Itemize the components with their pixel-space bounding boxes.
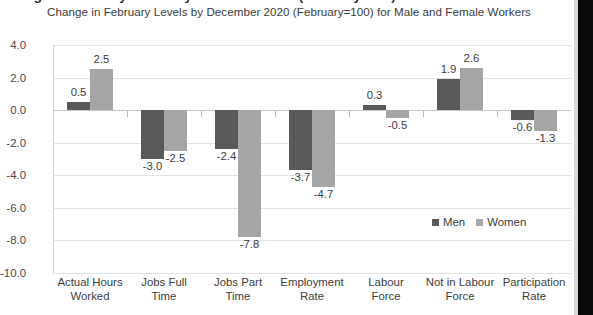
bar-value-label: -0.6: [513, 121, 532, 133]
gridline: [53, 45, 571, 46]
legend-item-men[interactable]: Men: [432, 216, 465, 228]
category-label-line2: Force: [426, 289, 494, 303]
bar-value-label: 2.5: [94, 53, 110, 65]
plot-area: 4.02.00.0-2.0-4.0-6.0-8.0-10.00.52.5-3.0…: [53, 45, 571, 273]
gridline: [53, 273, 571, 274]
category-label-line2: Time: [214, 289, 262, 303]
category-divider-tick: [497, 110, 498, 117]
category-label-line2: Rate: [280, 289, 343, 303]
category-divider-tick: [423, 110, 424, 117]
category-divider-tick: [275, 110, 276, 117]
category-label-line1: Jobs Full: [141, 276, 187, 288]
x-axis-category-label: Jobs FullTime: [141, 275, 187, 303]
x-axis-category-label: LabourForce: [368, 275, 403, 303]
legend-swatch-icon: [476, 219, 483, 226]
bar-men-3: [289, 110, 312, 170]
category-label-line1: Participation: [503, 276, 566, 288]
bar-men-0: [67, 102, 90, 110]
chart-subtitle: Change in February Levels by December 20…: [0, 5, 578, 18]
category-divider-tick: [127, 110, 128, 117]
bar-men-2: [215, 110, 238, 149]
bar-men-4: [363, 105, 386, 110]
gridline: [53, 208, 571, 209]
bar-value-label: -3.7: [291, 171, 310, 183]
x-axis-category-label: EmploymentRate: [280, 275, 343, 303]
y-axis-tick-label: -6.0: [0, 202, 26, 214]
y-axis-tick-label: -2.0: [0, 137, 26, 149]
chart-legend: MenWomen: [432, 216, 526, 228]
bar-men-6: [511, 110, 534, 120]
legend-swatch-icon: [432, 219, 439, 226]
bar-men-5: [437, 79, 460, 110]
bar-value-label: -2.4: [217, 150, 236, 162]
legend-label: Men: [443, 216, 465, 228]
x-axis-category-label: ParticipationRate: [503, 275, 566, 303]
bar-value-label: 0.5: [71, 86, 87, 98]
chart-title-text: Change in February Levels by December 20…: [0, 0, 578, 3]
category-divider-tick: [201, 110, 202, 117]
y-axis-tick-label: 2.0: [0, 72, 26, 84]
bar-women-0: [90, 69, 113, 110]
legend-label: Women: [487, 216, 526, 228]
y-axis-tick-label: 4.0: [0, 39, 26, 51]
gridline: [53, 240, 571, 241]
gridline: [53, 78, 571, 79]
category-label-line1: Employment: [280, 276, 343, 288]
bar-value-label: 0.3: [367, 89, 383, 101]
bar-women-1: [164, 110, 187, 151]
bar-women-3: [312, 110, 335, 187]
category-label-line2: Force: [368, 289, 403, 303]
bar-value-label: -1.3: [536, 132, 555, 144]
bar-value-label: -7.8: [240, 238, 259, 250]
bar-women-6: [534, 110, 557, 131]
x-axis-category-label: Actual HoursWorked: [57, 275, 122, 303]
page-edge-band: [578, 0, 593, 315]
category-label-line1: Not in Labour: [426, 276, 494, 288]
bar-value-label: 1.9: [441, 63, 457, 75]
bar-women-4: [386, 110, 409, 118]
y-axis-line: [53, 45, 54, 273]
bar-men-1: [141, 110, 164, 159]
category-label-line2: Rate: [503, 289, 566, 303]
y-axis-tick-label: 0.0: [0, 104, 26, 116]
category-label-line1: Jobs Part: [214, 276, 262, 288]
bar-women-5: [460, 68, 483, 110]
category-label-line1: Actual Hours: [57, 276, 122, 288]
bar-women-2: [238, 110, 261, 237]
category-label-line2: Worked: [57, 289, 122, 303]
y-axis-tick-label: -10.0: [0, 267, 26, 279]
y-axis-tick-label: -8.0: [0, 234, 26, 246]
category-label-line2: Time: [141, 289, 187, 303]
bar-value-label: -4.7: [314, 188, 333, 200]
category-divider-tick: [349, 110, 350, 117]
y-axis-tick-label: -4.0: [0, 169, 26, 181]
bar-value-label: 2.6: [464, 52, 480, 64]
bar-value-label: -3.0: [143, 160, 162, 172]
category-label-line1: Labour: [368, 276, 403, 288]
bar-value-label: -0.5: [388, 119, 407, 131]
legend-item-women[interactable]: Women: [476, 216, 526, 228]
bar-value-label: -2.5: [166, 152, 185, 164]
chart-screenshot: Change in February Levels by December 20…: [0, 0, 593, 315]
x-axis-category-label: Not in LabourForce: [426, 275, 494, 303]
x-axis-category-label: Jobs PartTime: [214, 275, 262, 303]
